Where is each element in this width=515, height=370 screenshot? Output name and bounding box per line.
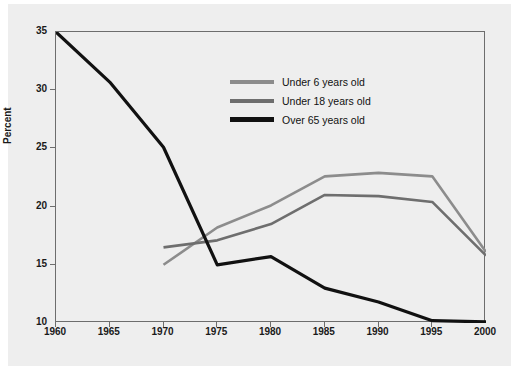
x-tick-label: 2000 [463,326,507,337]
legend-swatch-under-18 [230,99,274,103]
legend-item: Under 18 years old [230,91,371,110]
x-tick-label: 1995 [409,326,453,337]
chart-screenshot: 101520253035 196019651970197519801985199… [0,0,515,370]
y-tick-mark [50,264,55,265]
y-tick-mark [50,147,55,148]
x-tick-label: 1970 [141,326,185,337]
series-line [164,195,487,256]
legend: Under 6 years old Under 18 years old Ove… [230,72,371,129]
x-tick-label: 1990 [356,326,400,337]
x-tick-label: 1965 [87,326,131,337]
y-tick-mark [50,206,55,207]
legend-item: Over 65 years old [230,110,371,129]
y-tick-mark [50,89,55,90]
x-tick-mark [378,322,379,327]
x-tick-label: 1960 [33,326,77,337]
legend-label-over-65: Over 65 years old [282,114,365,126]
x-tick-mark [324,322,325,327]
y-tick-label: 25 [19,142,47,152]
legend-label-under-18: Under 18 years old [282,95,371,107]
x-tick-mark [109,322,110,327]
x-tick-mark [270,322,271,327]
y-tick-label: 30 [19,84,47,94]
x-tick-label: 1980 [248,326,292,337]
legend-swatch-over-65 [230,117,274,122]
y-axis-title: Percent [2,107,13,144]
x-tick-label: 1975 [194,326,238,337]
y-tick-label: 15 [19,259,47,269]
x-tick-mark [431,322,432,327]
y-tick-label: 20 [19,201,47,211]
chart-panel: 101520253035 196019651970197519801985199… [8,4,511,366]
legend-item: Under 6 years old [230,72,371,91]
legend-swatch-under-6 [230,80,274,84]
x-tick-mark [55,322,56,327]
y-tick-label: 35 [19,26,47,36]
x-tick-label: 1985 [302,326,346,337]
x-tick-mark [216,322,217,327]
legend-label-under-6: Under 6 years old [282,76,365,88]
x-tick-mark [163,322,164,327]
